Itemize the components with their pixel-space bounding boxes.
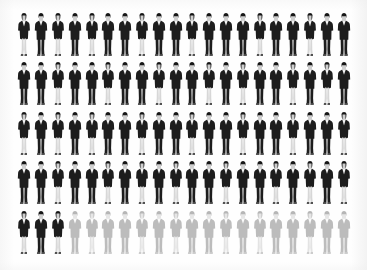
pictogram-person-icon (285, 211, 302, 260)
pictogram-person-icon (33, 112, 50, 161)
pictogram-person-icon (83, 161, 100, 210)
pictogram-person-icon (167, 211, 184, 260)
pictogram-person-icon (318, 161, 335, 210)
pictogram-alt-text: Pictogram of 100 business people arrange… (0, 0, 1, 1)
pictogram-person-icon (268, 211, 285, 260)
pictogram-person-icon (16, 161, 33, 210)
pictogram-person-icon (251, 13, 268, 62)
pictogram-person-icon (251, 112, 268, 161)
pictogram-person-icon (218, 161, 235, 210)
pictogram-person-icon (251, 62, 268, 111)
pictogram-person-icon (285, 112, 302, 161)
pictogram-person-icon (201, 161, 218, 210)
pictogram-person-icon (167, 112, 184, 161)
pictogram-person-icon (335, 112, 352, 161)
pictogram-person-icon (83, 62, 100, 111)
pictogram-person-icon (251, 161, 268, 210)
pictogram-person-icon (335, 62, 352, 111)
pictogram-person-icon (335, 211, 352, 260)
pictogram-person-icon (50, 62, 67, 111)
pictogram-person-icon (33, 211, 50, 260)
pictogram-person-icon (234, 112, 251, 161)
pictogram-person-icon (167, 161, 184, 210)
pictogram-person-icon (302, 112, 319, 161)
pictogram-person-icon (184, 13, 201, 62)
pictogram-person-icon (150, 112, 167, 161)
pictogram-person-icon (134, 161, 151, 210)
pictogram-person-icon (285, 13, 302, 62)
pictogram-person-icon (285, 62, 302, 111)
pictogram-person-icon (268, 13, 285, 62)
pictogram-person-icon (50, 13, 67, 62)
pictogram-person-icon (268, 62, 285, 111)
pictogram-person-icon (100, 62, 117, 111)
pictogram-person-icon (33, 161, 50, 210)
pictogram-person-icon (285, 161, 302, 210)
pictogram-person-icon (134, 112, 151, 161)
pictogram-person-icon (117, 112, 134, 161)
pictogram-person-icon (66, 161, 83, 210)
pictogram-person-icon (50, 211, 67, 260)
pictogram-grid (16, 13, 352, 260)
pictogram-person-icon (83, 112, 100, 161)
pictogram-person-icon (302, 161, 319, 210)
pictogram-person-icon (302, 13, 319, 62)
pictogram-person-icon (117, 211, 134, 260)
pictogram-person-icon (201, 13, 218, 62)
pictogram-person-icon (268, 161, 285, 210)
pictogram-person-icon (50, 112, 67, 161)
pictogram-person-icon (150, 211, 167, 260)
pictogram-person-icon (100, 211, 117, 260)
pictogram-person-icon (234, 211, 251, 260)
pictogram-person-icon (184, 161, 201, 210)
pictogram-person-icon (335, 13, 352, 62)
pictogram-person-icon (167, 62, 184, 111)
pictogram-person-icon (83, 211, 100, 260)
pictogram-person-icon (16, 211, 33, 260)
pictogram-person-icon (134, 62, 151, 111)
pictogram-person-icon (150, 13, 167, 62)
pictogram-person-icon (66, 62, 83, 111)
pictogram-person-icon (117, 161, 134, 210)
pictogram-person-icon (184, 211, 201, 260)
pictogram-person-icon (251, 211, 268, 260)
pictogram-person-icon (318, 13, 335, 62)
pictogram-person-icon (66, 211, 83, 260)
pictogram-person-icon (167, 13, 184, 62)
pictogram-person-icon (234, 13, 251, 62)
pictogram-person-icon (302, 62, 319, 111)
pictogram-person-icon (302, 211, 319, 260)
pictogram-person-icon (218, 211, 235, 260)
pictogram-person-icon (218, 13, 235, 62)
pictogram-person-icon (234, 62, 251, 111)
pictogram-person-icon (134, 211, 151, 260)
pictogram-person-icon (16, 13, 33, 62)
pictogram-person-icon (117, 13, 134, 62)
pictogram-person-icon (117, 62, 134, 111)
pictogram-person-icon (218, 62, 235, 111)
pictogram-person-icon (184, 112, 201, 161)
pictogram-person-icon (16, 62, 33, 111)
pictogram-person-icon (318, 112, 335, 161)
pictogram-person-icon (201, 112, 218, 161)
pictogram-person-icon (33, 62, 50, 111)
pictogram-person-icon (184, 62, 201, 111)
pictogram-person-icon (318, 62, 335, 111)
pictogram-person-icon (150, 161, 167, 210)
pictogram-person-icon (66, 112, 83, 161)
pictogram-person-icon (268, 112, 285, 161)
pictogram-person-icon (318, 211, 335, 260)
pictogram-person-icon (50, 161, 67, 210)
pictogram-person-icon (134, 13, 151, 62)
pictogram-person-icon (150, 62, 167, 111)
pictogram-person-icon (33, 13, 50, 62)
pictogram-person-icon (335, 161, 352, 210)
pictogram-person-icon (16, 112, 33, 161)
infographic-canvas: Pictogram of 100 business people arrange… (0, 0, 367, 270)
pictogram-person-icon (66, 13, 83, 62)
pictogram-person-icon (201, 211, 218, 260)
pictogram-person-icon (234, 161, 251, 210)
pictogram-person-icon (83, 13, 100, 62)
pictogram-person-icon (100, 112, 117, 161)
pictogram-person-icon (100, 161, 117, 210)
